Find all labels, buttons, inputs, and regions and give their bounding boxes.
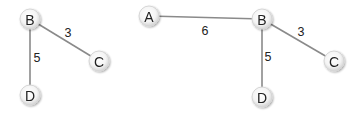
node-label: C xyxy=(329,54,339,70)
right-graph-node-D: D xyxy=(252,87,272,107)
graph-diagram: BCDABCD 35635 xyxy=(0,0,361,115)
left-graph-edge-weight-B-D: 5 xyxy=(34,51,41,65)
node-label: D xyxy=(25,88,35,104)
left-graph-edge-weight-B-C: 3 xyxy=(65,26,72,40)
left-graph-node-D: D xyxy=(20,85,40,105)
node-label: B xyxy=(25,12,34,28)
node-label: B xyxy=(257,12,266,28)
right-graph-edge-weight-B-D: 5 xyxy=(265,50,272,64)
right-graph-node-B: B xyxy=(252,9,272,29)
diagram-canvas: BCDABCD 35635 xyxy=(0,0,361,115)
right-graph-node-C: C xyxy=(324,51,344,71)
node-label: D xyxy=(257,90,267,106)
right-graph-edge-weight-B-C: 3 xyxy=(298,25,305,39)
right-graph-edge-A-B xyxy=(149,16,262,19)
edges-layer xyxy=(30,16,334,97)
right-graph-edge-weight-A-B: 6 xyxy=(202,24,209,38)
node-label: A xyxy=(144,9,154,25)
node-label: C xyxy=(94,54,104,70)
left-graph-node-B: B xyxy=(20,9,40,29)
nodes-layer: BCDABCD xyxy=(20,6,344,107)
right-graph-node-A: A xyxy=(139,6,159,26)
left-graph-node-C: C xyxy=(89,51,109,71)
edge-labels-layer: 35635 xyxy=(34,24,305,65)
